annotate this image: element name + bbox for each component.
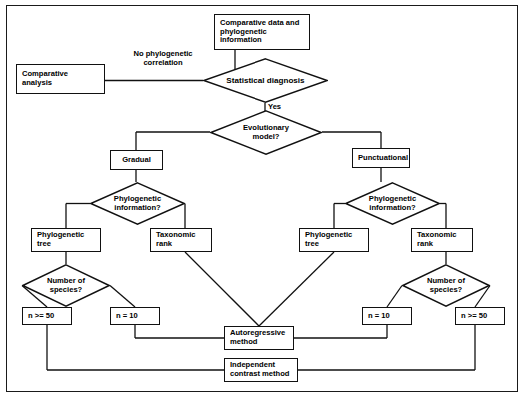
node-label: n >= 50 [461, 312, 499, 321]
node-label: Gradual [116, 156, 157, 165]
node-label: Statistical diagnosis [212, 76, 320, 85]
node-number-of-species-right: Number of species? [402, 264, 490, 307]
node-text-line: Evolutionary [243, 123, 289, 132]
node-autoregressive-method: Autoregressive method [224, 326, 294, 350]
node-text-line: information? [114, 203, 160, 212]
node-n-eq-10-left: n = 10 [110, 307, 160, 325]
node-text-line: Comparative [22, 69, 68, 78]
node-text-line: rank [156, 239, 172, 248]
node-phylogenetic-information-punctuational: Phylogenetic information? [345, 182, 440, 225]
node-text-line: contrast method [230, 369, 290, 378]
node-label: Number of species? [28, 277, 104, 294]
node-text-line: information? [369, 203, 415, 212]
edge-label-line: No phylogenetic [133, 49, 192, 58]
node-label: Number of species? [408, 277, 484, 294]
node-text-line: phylogenetic [220, 27, 267, 36]
node-text-line: Phylogenetic [369, 194, 416, 203]
node-text-line: species? [430, 285, 463, 294]
node-label: n >= 50 [28, 312, 66, 321]
node-label: Phylogenetic information? [352, 195, 434, 212]
node-text-line: Comparative data and [220, 18, 299, 27]
node-text-line: Phylogenetic [114, 194, 161, 203]
node-text-line: Phylogenetic [305, 230, 352, 239]
node-phylogenetic-tree-right: Phylogenetic tree [299, 228, 369, 252]
node-n-eq-10-right: n = 10 [362, 307, 412, 325]
node-text-line: model? [252, 132, 279, 141]
edge-species-l-right [110, 286, 135, 308]
node-number-of-species-left: Number of species? [22, 264, 110, 307]
node-text-line: species? [50, 285, 83, 294]
node-evolutionary-model: Evolutionary model? [210, 110, 322, 155]
node-comparative-analysis: Comparative analysis [16, 64, 105, 94]
node-label: n = 10 [116, 312, 154, 321]
node-text-line: analysis [22, 78, 52, 87]
node-text-line: Autoregressive [230, 328, 285, 337]
node-independent-contrast-method: Independent contrast method [224, 358, 298, 382]
node-phylogenetic-information-gradual: Phylogenetic information? [90, 182, 185, 225]
node-text-line: information [220, 35, 262, 44]
flowchart-canvas: Comparative data and phylogenetic inform… [0, 0, 524, 397]
node-text-line: Taxonomic [417, 230, 457, 239]
edge-rank-l-to-autoreg [185, 252, 259, 326]
node-label: Phylogenetic information? [97, 195, 179, 212]
node-text-line: tree [37, 239, 51, 248]
node-punctuational: Punctuational [352, 148, 410, 168]
node-label: Punctuational [358, 154, 404, 163]
node-text-line: Independent [230, 360, 275, 369]
edge-species-r-left [387, 286, 402, 308]
node-text-line: Number of [427, 276, 465, 285]
node-text-line: method [230, 337, 257, 346]
edge-tree-r-to-autoreg [259, 252, 334, 326]
node-text-line: Number of [47, 276, 85, 285]
node-comparative-data: Comparative data and phylogenetic inform… [214, 14, 310, 50]
node-text-line: tree [305, 239, 319, 248]
node-n-ge-50-right: n >= 50 [455, 307, 505, 325]
node-n-ge-50-left: n >= 50 [22, 307, 72, 325]
edge-label-line: correlation [143, 58, 182, 67]
node-taxonomic-rank-right: Taxonomic rank [411, 228, 473, 252]
edge-label-no-phylogenetic-correlation: No phylogenetic correlation [118, 50, 208, 68]
node-taxonomic-rank-left: Taxonomic rank [150, 228, 212, 252]
node-text-line: rank [417, 239, 433, 248]
node-statistical-diagnosis: Statistical diagnosis [203, 58, 328, 103]
node-text-line: Phylogenetic [37, 230, 84, 239]
node-label: n = 10 [368, 312, 406, 321]
node-text-line: Taxonomic [156, 230, 196, 239]
node-label: Evolutionary model? [218, 124, 314, 141]
node-phylogenetic-tree-left: Phylogenetic tree [31, 228, 101, 252]
node-gradual: Gradual [110, 150, 163, 170]
